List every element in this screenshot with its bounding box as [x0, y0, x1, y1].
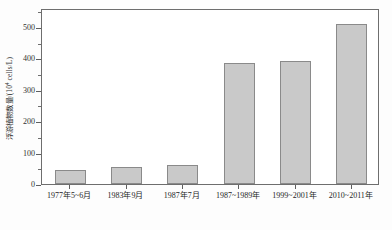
y-axis-label-200: 200 [7, 118, 35, 126]
x-axis-tick-2 [126, 185, 127, 189]
x-axis-label-3: 1987年7月 [154, 191, 210, 201]
y-axis-label-100: 100 [7, 150, 35, 158]
plot-area [41, 9, 379, 185]
x-axis-tick-6 [351, 185, 352, 189]
bar-2 [111, 167, 142, 184]
y-axis-tick-0 [36, 185, 41, 186]
bar-series [42, 10, 378, 184]
bar-chart-figure: 浮游植物数量/(104 cells/L) 0100200300400500 19… [0, 0, 392, 230]
x-axis-tick-5 [295, 185, 296, 189]
bar-5 [280, 61, 311, 184]
x-axis-label-2: 1983年9月 [97, 191, 153, 201]
bar-1 [55, 170, 86, 184]
y-axis-label-400: 400 [7, 55, 35, 63]
bar-3 [167, 165, 198, 184]
bar-4 [224, 63, 255, 184]
x-axis-label-6: 2010~2011年 [323, 191, 379, 201]
x-axis-label-1: 1977年5~6月 [41, 191, 97, 201]
y-axis-label-0: 0 [7, 181, 35, 189]
x-axis-tick-1 [69, 185, 70, 189]
bar-6 [336, 24, 367, 184]
y-axis-label-500: 500 [7, 24, 35, 32]
x-axis-label-4: 1987~1989年 [210, 191, 266, 201]
x-axis-label-5: 1999~2001年 [266, 191, 322, 201]
x-axis-tick-4 [238, 185, 239, 189]
y-axis-tick-labels: 0100200300400500 [0, 0, 35, 230]
x-axis-tick-3 [182, 185, 183, 189]
y-axis-label-300: 300 [7, 87, 35, 95]
